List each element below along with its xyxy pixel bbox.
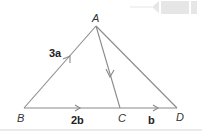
vector-cd-label: b bbox=[148, 115, 155, 126]
bottom-divider bbox=[0, 129, 202, 131]
triangle-diagram bbox=[0, 0, 202, 136]
segment-ba bbox=[24, 26, 96, 108]
vector-ba-label: 3a bbox=[49, 48, 61, 59]
point-b-label: B bbox=[17, 113, 24, 124]
point-d-label: D bbox=[176, 112, 184, 123]
point-a-label: A bbox=[92, 13, 99, 24]
point-c-label: C bbox=[118, 113, 126, 124]
vector-bc-label: 2b bbox=[71, 115, 84, 126]
